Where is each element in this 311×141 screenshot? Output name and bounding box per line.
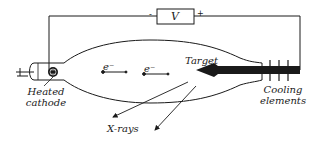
- diagram-drawing: [0, 0, 311, 141]
- electron-label-1: e⁻: [103, 61, 114, 72]
- x-ray-tube-diagram: - V + e⁻ e⁻ Target Heated cathode Coolin…: [0, 0, 311, 141]
- positive-terminal-label: +: [197, 8, 204, 19]
- ground-icon: [16, 68, 34, 76]
- electron-label-2: e⁻: [144, 63, 155, 74]
- cathode-filament-icon: [48, 67, 58, 77]
- cooling-elements-label: Cooling elements: [258, 84, 308, 106]
- negative-terminal-label: -: [149, 9, 152, 20]
- heated-cathode-line2: cathode: [24, 97, 68, 108]
- xrays-label: X-rays: [107, 123, 139, 134]
- cathode-pointer-line: [44, 77, 53, 86]
- heated-cathode-label: Heated cathode: [24, 86, 68, 108]
- target-label: Target: [185, 55, 218, 66]
- cooling-elements-line1: Cooling: [258, 84, 308, 95]
- heated-cathode-line1: Heated: [24, 86, 68, 97]
- voltage-label: V: [171, 11, 179, 22]
- cooling-elements-line2: elements: [258, 95, 308, 106]
